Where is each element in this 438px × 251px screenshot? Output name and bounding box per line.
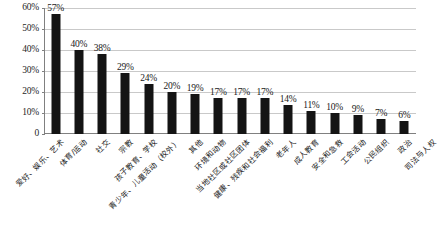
bar-slot: 24% <box>137 8 160 134</box>
bar <box>260 98 269 134</box>
bar-slot: 17% <box>253 8 276 134</box>
bar-value-label: 17% <box>210 87 227 97</box>
bar <box>330 113 339 134</box>
bar-value-label: 6% <box>398 110 410 120</box>
bar <box>237 98 246 134</box>
bar-value-label: 38% <box>94 43 111 53</box>
bar-slot: 38% <box>91 8 114 134</box>
bar-value-label: 19% <box>187 83 204 93</box>
y-axis-tick-label: 40% <box>0 45 39 55</box>
bar <box>353 115 362 134</box>
bar-series: 57%40%38%29%24%20%19%17%17%17%14%11%10%9… <box>44 8 416 134</box>
bar <box>284 105 293 134</box>
x-axis-category-labels: 爱好、娱乐、艺术体育/运动社交宗教孩子教育、学校青少年、儿童活动（校外）其他环境… <box>44 136 416 232</box>
x-axis-category-label: 其他 <box>188 138 205 155</box>
bar-slot: 7% <box>370 8 393 134</box>
bar <box>214 98 223 134</box>
bar-value-label: 17% <box>257 87 274 97</box>
x-axis-category-label: 社交 <box>95 138 112 155</box>
bar-slot: 40% <box>67 8 90 134</box>
x-axis-category-label: 爱好、娱乐、艺术 <box>14 138 65 189</box>
bar <box>191 94 200 134</box>
bar-value-label: 20% <box>164 81 181 91</box>
bar-value-label: 17% <box>233 87 250 97</box>
y-axis-tick-label: 0 <box>0 129 39 139</box>
bar <box>400 121 409 134</box>
bar <box>121 73 130 134</box>
bar <box>98 54 107 134</box>
bar-slot: 17% <box>230 8 253 134</box>
bar-value-label: 29% <box>117 62 134 72</box>
bar-value-label: 14% <box>280 94 297 104</box>
x-axis-category-label: 宗教 <box>118 138 135 155</box>
bar-slot: 29% <box>114 8 137 134</box>
bar-value-label: 11% <box>303 100 319 110</box>
y-axis-tick-mark <box>42 134 45 135</box>
bar-value-label: 40% <box>71 39 88 49</box>
bar <box>377 119 386 134</box>
bar-slot: 17% <box>207 8 230 134</box>
bar-value-label: 7% <box>375 108 387 118</box>
y-axis-tick-label: 30% <box>0 66 39 76</box>
bar-slot: 10% <box>323 8 346 134</box>
bar-slot: 14% <box>277 8 300 134</box>
y-axis-tick-label: 60% <box>0 3 39 13</box>
bar <box>144 84 153 134</box>
y-axis-tick-label: 20% <box>0 87 39 97</box>
bar <box>167 92 176 134</box>
y-axis-tick-label: 10% <box>0 108 39 118</box>
figure-caption <box>0 239 431 251</box>
x-axis-category-label: 政治 <box>397 138 414 155</box>
bar <box>307 111 316 134</box>
bar-value-label: 9% <box>352 104 364 114</box>
bar-value-label: 10% <box>326 102 343 112</box>
bar-value-label: 57% <box>47 3 64 13</box>
bar-slot: 57% <box>44 8 67 134</box>
y-axis-tick-label: 50% <box>0 24 39 34</box>
bar <box>74 50 83 134</box>
bar <box>51 14 60 134</box>
bar-slot: 9% <box>346 8 369 134</box>
bar-value-label: 24% <box>140 73 157 83</box>
bar-slot: 20% <box>160 8 183 134</box>
bar-slot: 19% <box>184 8 207 134</box>
bar-slot: 11% <box>300 8 323 134</box>
bar-slot: 6% <box>393 8 416 134</box>
